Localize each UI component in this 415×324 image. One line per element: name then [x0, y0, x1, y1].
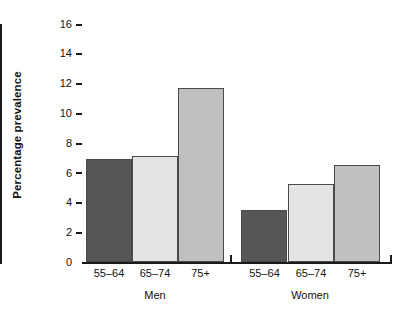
bar-chart-figure: Percentage prevalence 16 14 12 10 8 6 4 …	[0, 0, 415, 324]
y-tick-label-12: 12	[44, 78, 72, 89]
bar-women-55-64[interactable]	[241, 210, 287, 262]
y-axis-title-text: Percentage prevalence	[11, 71, 23, 198]
y-tick-label-16: 16	[44, 19, 72, 30]
y-tick-label-2: 2	[44, 227, 72, 238]
x-label-women-55-64: 55–64	[241, 268, 288, 279]
bar-women-75plus[interactable]	[334, 165, 380, 262]
bar-men-65-74[interactable]	[132, 156, 178, 262]
x-label-men-55-64: 55–64	[86, 268, 132, 279]
y-tick-label-6: 6	[44, 168, 72, 179]
x-label-women-65-74: 65–74	[288, 268, 334, 279]
group-label-men: Men	[110, 290, 200, 301]
y-axis-line	[0, 24, 2, 264]
y-tick-label-8: 8	[44, 138, 72, 149]
group-label-women: Women	[265, 290, 355, 301]
y-tick-label-4: 4	[44, 197, 72, 208]
y-axis-title: Percentage prevalence	[0, 0, 34, 270]
bar-men-75plus[interactable]	[178, 88, 224, 262]
bar-women-65-74[interactable]	[288, 184, 334, 262]
x-label-women-75plus: 75+	[334, 268, 380, 279]
x-label-men-75plus: 75+	[178, 268, 223, 279]
y-tick-label-10: 10	[44, 108, 72, 119]
plot-area	[82, 24, 390, 262]
x-axis-line	[82, 262, 392, 264]
x-axis-right-cap	[390, 255, 392, 264]
y-axis-tick-labels: 16 14 12 10 8 6 4 2 0	[40, 0, 72, 324]
x-label-men-65-74: 65–74	[132, 268, 178, 279]
y-tick-label-14: 14	[44, 48, 72, 59]
y-tick-label-0: 0	[44, 257, 72, 268]
bar-men-55-64[interactable]	[86, 159, 132, 262]
